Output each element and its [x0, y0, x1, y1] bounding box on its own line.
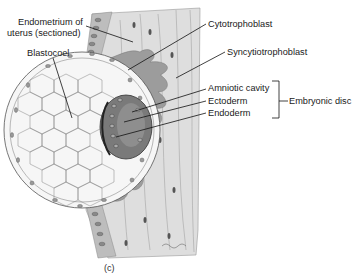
label-amniotic-cavity: Amniotic cavity — [208, 83, 269, 93]
label-endometrium-line2: uterus (sectioned) — [7, 28, 81, 38]
embryonic-disc — [100, 95, 152, 159]
implantation-diagram: Endometrium of uterus (sectioned) Blasto… — [0, 0, 358, 278]
diagram-artwork — [0, 0, 358, 278]
label-embryonic-disc: Embryonic disc — [289, 96, 351, 106]
figure-caption: (c) — [104, 263, 115, 273]
label-cytotrophoblast: Cytotrophoblast — [208, 19, 272, 29]
label-endoderm: Endoderm — [208, 108, 250, 118]
label-endometrium-line1: Endometrium of — [18, 17, 83, 27]
label-ectoderm: Ectoderm — [208, 96, 247, 106]
label-blastocoel: Blastocoel — [27, 48, 69, 58]
label-syncytiotrophoblast: Syncytiotrophoblast — [227, 47, 307, 57]
